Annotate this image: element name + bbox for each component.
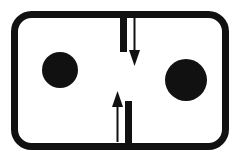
left-particle	[42, 52, 78, 88]
right-particle	[165, 59, 207, 101]
schematic-diagram	[0, 0, 238, 161]
figure-root	[0, 0, 238, 161]
